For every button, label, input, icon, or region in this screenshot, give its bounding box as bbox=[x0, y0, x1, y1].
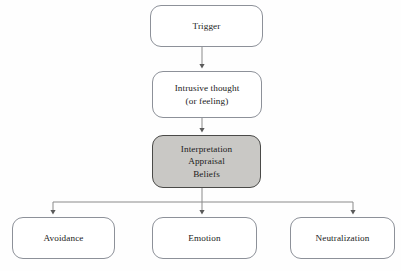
edge-interpretation-branch-bus bbox=[53, 188, 353, 202]
node-trigger: Trigger bbox=[150, 5, 263, 47]
node-intrusive-thought-label: Intrusive thought (or feeling) bbox=[175, 82, 240, 106]
node-neutralization-label: Neutralization bbox=[316, 232, 370, 244]
node-neutralization: Neutralization bbox=[290, 217, 395, 259]
node-avoidance-label: Avoidance bbox=[43, 232, 83, 244]
node-interpretation-appraisal-beliefs: Interpretation Appraisal Beliefs bbox=[152, 135, 261, 188]
node-intrusive-thought: Intrusive thought (or feeling) bbox=[152, 71, 262, 118]
node-trigger-label: Trigger bbox=[193, 20, 221, 32]
node-interpretation-appraisal-beliefs-label: Interpretation Appraisal Beliefs bbox=[181, 143, 232, 179]
node-avoidance: Avoidance bbox=[12, 217, 115, 259]
node-emotion-label: Emotion bbox=[188, 232, 220, 244]
node-emotion: Emotion bbox=[152, 217, 257, 259]
flowchart-canvas: Trigger Intrusive thought (or feeling) I… bbox=[0, 0, 401, 271]
